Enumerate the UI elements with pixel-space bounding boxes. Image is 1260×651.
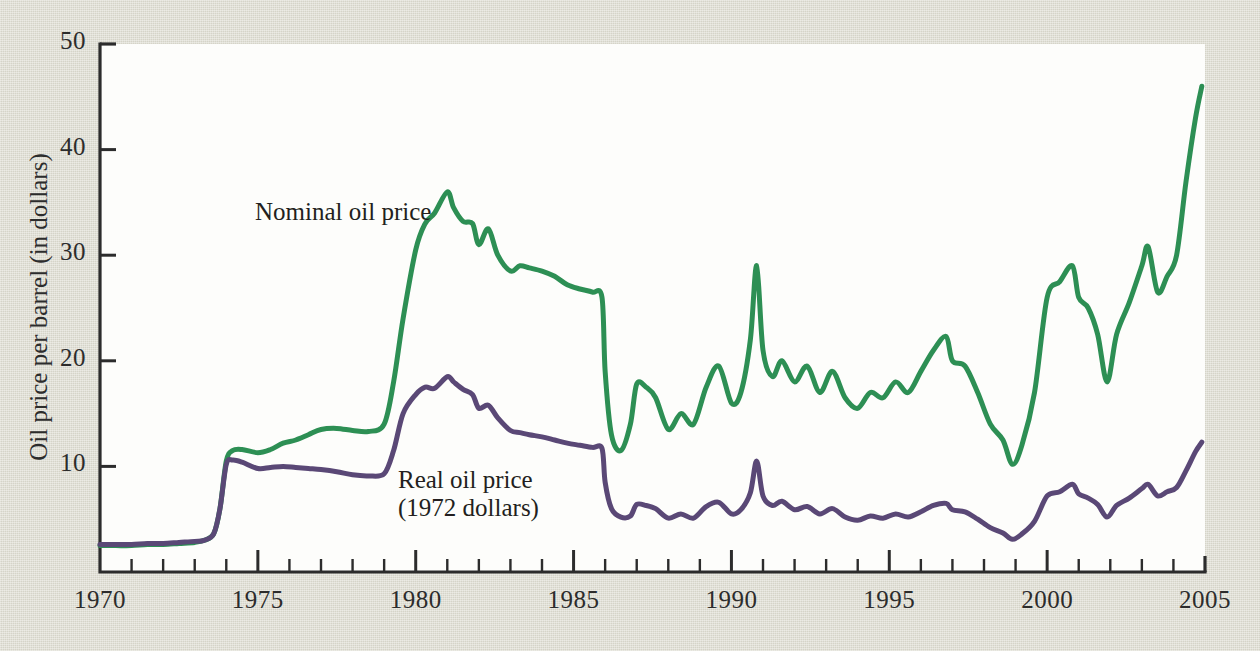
series-line-nominal (100, 86, 1202, 545)
y-axis-title: Oil price per barrel (in dollars) (25, 97, 53, 517)
x-tick-label: 1980 (371, 586, 461, 614)
x-tick-label: 1975 (213, 586, 303, 614)
series-paths (100, 86, 1202, 545)
x-tick-label: 2005 (1160, 586, 1250, 614)
series-label-real-oil-price: Real oil price (1972 dollars) (398, 466, 539, 522)
figure-container: 1020304050 19701975198019851990199520002… (0, 0, 1260, 651)
axis-spine (100, 44, 1205, 572)
axis-lines (100, 44, 1205, 572)
series-label-nominal-oil-price: Nominal oil price (255, 198, 431, 226)
x-tick-label: 1985 (529, 586, 619, 614)
x-tick-label: 1990 (686, 586, 776, 614)
line-chart (0, 0, 1260, 651)
y-tick-label: 50 (26, 27, 86, 55)
series-line-real (100, 376, 1202, 544)
x-tick-label: 2000 (1002, 586, 1092, 614)
x-tick-label: 1970 (55, 586, 145, 614)
x-tick-label: 1995 (844, 586, 934, 614)
